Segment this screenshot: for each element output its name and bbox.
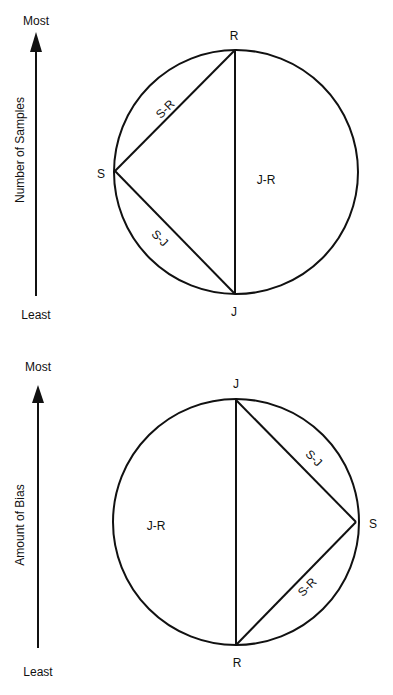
bias-segment-upper: S-J [303, 447, 326, 470]
bias-segment-lower: S-R [295, 575, 320, 600]
samples-axis-top-label: Most [23, 14, 50, 28]
panel-amount-of-bias: Most Least Amount of Bias J R S S-J S-R … [13, 360, 377, 679]
bias-segment-diameter: J-R [147, 519, 166, 533]
arrow-up-icon [30, 32, 42, 52]
samples-axis-title: Number of Samples [13, 97, 27, 203]
samples-segment-lower: S-J [149, 227, 172, 250]
samples-axis: Most Least Number of Samples [13, 14, 51, 322]
samples-axis-bottom-label: Least [21, 308, 51, 322]
panel-number-of-samples: Most Least Number of Samples R J S S-R S… [13, 14, 358, 322]
bias-vertex-side: S [369, 517, 377, 531]
bias-axis-title: Amount of Bias [13, 484, 27, 565]
samples-vertex-side: S [97, 167, 105, 181]
samples-chord-sj [115, 171, 235, 294]
samples-chord-sr [115, 50, 235, 171]
bias-axis-bottom-label: Least [23, 665, 53, 679]
bias-vertex-bottom: R [233, 656, 242, 670]
bias-vertex-top: J [233, 377, 239, 391]
bias-axis: Most Least Amount of Bias [13, 360, 53, 679]
samples-segment-upper: S-R [153, 97, 178, 122]
bias-axis-top-label: Most [25, 360, 52, 374]
bias-chord-sj [236, 400, 356, 522]
samples-vertex-bottom: J [231, 305, 237, 319]
diagram-canvas: Most Least Number of Samples R J S S-R S… [0, 0, 393, 695]
samples-segment-diameter: J-R [257, 173, 276, 187]
samples-vertex-top: R [230, 29, 239, 43]
bias-chord-sr [236, 522, 356, 645]
